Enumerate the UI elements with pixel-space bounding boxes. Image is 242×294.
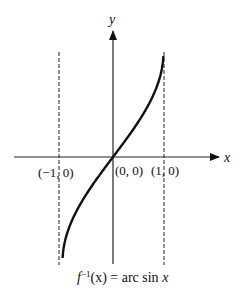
x-axis-label: x	[223, 150, 231, 165]
point-label-neg1: (−1, 0)	[38, 165, 74, 180]
arcsin-graph-figure: y x (−1, 0) (0, 0) (1, 0) f−1(x) = arc s…	[0, 0, 242, 294]
y-axis-label: y	[107, 12, 116, 27]
point-label-pos1: (1, 0)	[151, 163, 179, 178]
point-label-origin: (0, 0)	[115, 163, 143, 178]
caption: f−1(x) = arc sin x	[77, 269, 169, 286]
plot-area: y x (−1, 0) (0, 0) (1, 0) f−1(x) = arc s…	[0, 0, 242, 294]
